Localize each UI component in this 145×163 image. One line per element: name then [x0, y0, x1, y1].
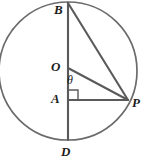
vertex-label-B: B — [54, 3, 63, 16]
segment-BP — [68, 3, 128, 100]
vertex-label-O: O — [51, 60, 60, 73]
circle-geometry-diagram: B O A D P θ — [0, 0, 145, 163]
vertex-label-D: D — [61, 145, 70, 158]
vertex-label-P: P — [132, 96, 140, 109]
vertex-label-A: A — [51, 92, 60, 105]
right-angle-marker-at-A — [68, 90, 78, 100]
angle-label-theta: θ — [67, 74, 73, 86]
